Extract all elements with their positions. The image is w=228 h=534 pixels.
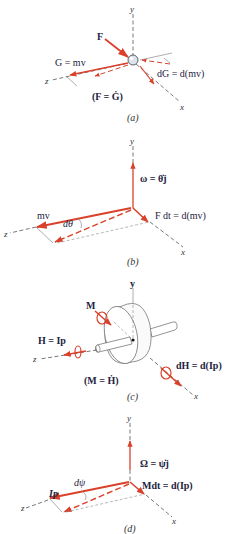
x-axis-label: x — [179, 102, 184, 112]
parallelogram-side — [50, 499, 62, 512]
panel-a: y z x F G = mv dG = d(mv) (F = Ġ) (a) — [44, 4, 204, 124]
parallelogram-dashed-side — [66, 494, 145, 512]
particle-highlight — [130, 57, 134, 61]
tangent-line — [140, 53, 172, 60]
spin-momentum-label: Ip — [48, 488, 58, 499]
gyroscopic-motion-figure: y z x F G = mv dG = d(mv) (F = Ġ) (a) y … — [0, 0, 228, 534]
moment-label: M — [86, 300, 96, 311]
x-axis — [146, 495, 172, 517]
y-axis-label: y — [129, 4, 134, 14]
construction-line-2 — [164, 58, 170, 63]
angle-arc — [82, 491, 86, 500]
precession-label: Ω = ψ̇j — [140, 458, 169, 469]
dG-label: dG = d(mv) — [157, 68, 204, 80]
x-axis — [150, 222, 183, 247]
impulse-vector — [133, 208, 148, 222]
construction-line — [66, 76, 77, 86]
y-axis-label: y — [129, 136, 134, 146]
z-axis — [10, 227, 36, 233]
angular-velocity-label: ω = θ̇j — [140, 173, 167, 184]
z-axis-label: z — [20, 503, 25, 513]
dG-vector — [142, 60, 170, 64]
equation-label: (F = Ġ) — [92, 91, 123, 103]
momentum-label: mv — [37, 210, 50, 221]
angle-label: dθ — [63, 218, 73, 229]
caption-c: (c) — [127, 391, 139, 403]
caption-a: (a) — [127, 112, 139, 124]
particle-sphere — [128, 55, 138, 65]
force-vector — [105, 39, 128, 57]
caption-d: (d) — [124, 523, 136, 534]
caption-b: (b) — [127, 256, 139, 268]
center-point — [131, 338, 134, 341]
x-axis-label: x — [193, 391, 198, 401]
z-axis-label: z — [44, 76, 49, 86]
z-axis-label: z — [32, 354, 37, 364]
angular-momentum-label: H = Ip — [38, 335, 66, 346]
z-axis — [26, 500, 48, 508]
x-axis-label: x — [171, 516, 176, 526]
panel-b: y ω = θ̇j z x mv F dt = d(mv) dθ (b) — [3, 136, 206, 268]
velocity-change-vector — [140, 66, 154, 84]
impulse-label: F dt = d(mv) — [155, 210, 206, 222]
dH-label: dH = d(Ip) — [176, 360, 222, 372]
momentum-label: G = mv — [55, 57, 86, 68]
momentum-vector — [37, 208, 131, 227]
y-axis-label: y — [130, 278, 135, 289]
x-axis-label: x — [180, 247, 185, 257]
angular-impulse-label: Mdt = d(Ip) — [142, 480, 193, 492]
y-axis-label: y — [126, 413, 131, 423]
equation-label: (M = Ḣ) — [84, 375, 119, 387]
panel-d: y Ω = ψ̇j z x Ip Mdt = d(Ip) dψ (d) — [20, 413, 193, 534]
shaft-rear — [150, 322, 177, 337]
force-label: F — [97, 31, 103, 42]
parallelogram-side — [36, 227, 53, 243]
panel-c: y z x M H = Ip dH = d(Ip) (M = Ḣ) (c) — [32, 278, 222, 403]
angle-label: dψ — [74, 477, 86, 488]
z-axis-label: z — [3, 229, 8, 239]
spin-momentum-vector — [50, 482, 129, 498]
